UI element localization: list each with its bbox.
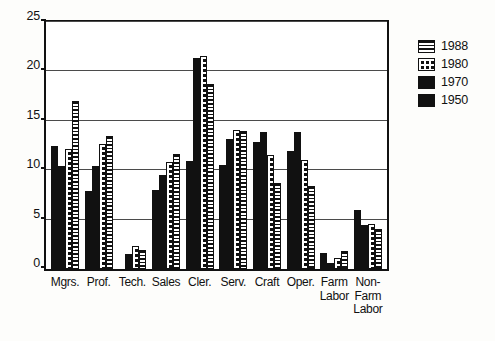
x-axis-label: Non-FarmLabor	[352, 276, 384, 317]
bar-group	[152, 22, 180, 269]
legend-label: 1970	[441, 76, 468, 89]
bar	[294, 132, 301, 269]
x-axis-label: Sales	[150, 276, 182, 317]
x-axis-label: Craft	[251, 276, 283, 317]
bar-group	[51, 22, 79, 269]
bar	[200, 56, 207, 269]
bar	[139, 250, 146, 269]
bar	[240, 131, 247, 269]
bar	[207, 84, 214, 269]
x-axis-labels: Mgrs.Prof.Tech.SalesCler.Serv.CraftOper.…	[44, 276, 389, 317]
bar-group	[320, 22, 348, 269]
bar-chart: 0510152025 Mgrs.Prof.Tech.SalesCler.Serv…	[0, 0, 495, 341]
legend-label: 1980	[441, 58, 468, 71]
x-axis-label: Prof.	[83, 276, 115, 317]
x-axis-label: Oper.	[285, 276, 317, 317]
bar	[233, 130, 240, 269]
bar-group	[287, 22, 315, 269]
x-axis-label: Tech.	[116, 276, 148, 317]
bar	[72, 101, 79, 269]
bar	[173, 154, 180, 269]
bar-group	[118, 22, 146, 269]
bar	[65, 149, 72, 269]
legend-item: 1950	[418, 94, 468, 107]
bar	[125, 254, 132, 269]
bar	[320, 253, 327, 269]
bar-group	[354, 22, 382, 269]
bar-group	[253, 22, 281, 269]
bar-groups	[46, 22, 387, 269]
bar	[58, 166, 65, 269]
bar	[166, 162, 173, 269]
bar	[106, 136, 113, 269]
bar	[226, 139, 233, 269]
x-axis-label: Serv.	[217, 276, 249, 317]
legend-swatch	[418, 40, 435, 53]
bar	[219, 165, 226, 269]
bar	[368, 224, 375, 269]
x-axis-label: FarmLabor	[318, 276, 350, 317]
x-axis-label: Mgrs.	[49, 276, 81, 317]
bar	[193, 58, 200, 269]
bar-group	[219, 22, 247, 269]
bar	[92, 166, 99, 269]
bar	[186, 161, 193, 269]
legend-item: 1970	[418, 76, 468, 89]
x-axis-label: Cler.	[184, 276, 216, 317]
bar	[159, 175, 166, 269]
bar	[375, 229, 382, 269]
bar	[354, 210, 361, 269]
bar	[267, 155, 274, 269]
legend-item: 1988	[418, 40, 468, 53]
legend-item: 1980	[418, 58, 468, 71]
legend-swatch	[418, 76, 435, 89]
bar	[327, 263, 334, 269]
legend: 1988198019701950	[418, 40, 468, 107]
bar	[274, 183, 281, 269]
bar	[301, 160, 308, 269]
bar	[132, 246, 139, 269]
bar-group	[85, 22, 113, 269]
bar	[51, 146, 58, 270]
bar	[253, 142, 260, 269]
bar	[152, 190, 159, 269]
legend-swatch	[418, 94, 435, 107]
bar	[99, 144, 106, 269]
legend-label: 1988	[441, 40, 468, 53]
bar	[334, 258, 341, 269]
bar	[85, 191, 92, 269]
bar	[287, 151, 294, 269]
legend-label: 1950	[441, 94, 468, 107]
plot-area: 0510152025	[44, 20, 389, 271]
bar	[308, 186, 315, 269]
bar-group	[186, 22, 214, 269]
bar	[361, 225, 368, 269]
bar	[341, 251, 348, 269]
legend-swatch	[418, 58, 435, 71]
y-axis-tick-mark	[41, 19, 46, 21]
bar	[260, 132, 267, 269]
